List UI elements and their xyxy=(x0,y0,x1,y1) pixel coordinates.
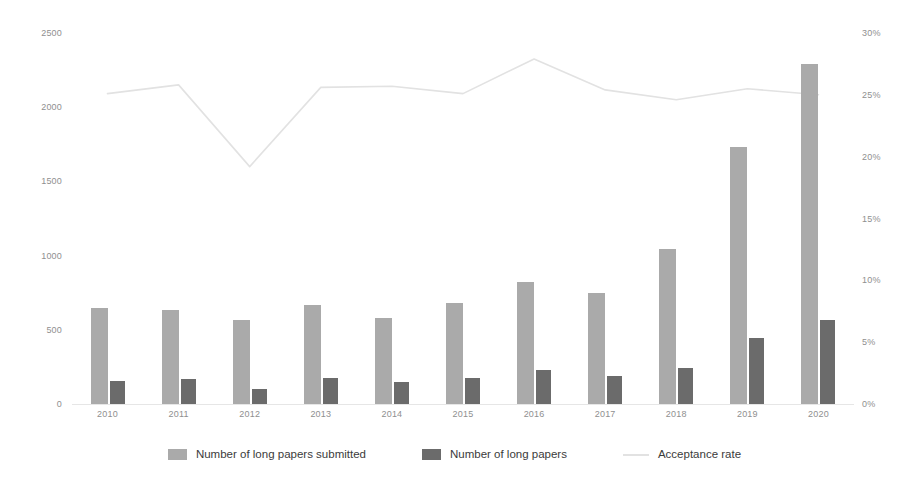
y-axis-left-tick: 1500 xyxy=(41,176,62,186)
x-axis-baseline xyxy=(72,404,854,405)
bar-submitted xyxy=(446,303,463,404)
bar-accepted xyxy=(820,320,835,404)
y-axis-right-tick: 0% xyxy=(862,399,875,409)
x-axis-tick-label: 2019 xyxy=(737,409,758,419)
y-axis-left-tick: 0 xyxy=(57,399,62,409)
legend-label-accepted: Number of long papers xyxy=(450,448,567,460)
x-axis-tick-label: 2016 xyxy=(524,409,545,419)
legend-swatch-submitted-icon xyxy=(168,449,187,460)
y-axis-right-tick: 5% xyxy=(862,337,875,347)
x-axis-tick-label: 2014 xyxy=(381,409,402,419)
x-axis-tick-label: 2015 xyxy=(453,409,474,419)
legend-item-submitted[interactable]: Number of long papers submitted xyxy=(168,448,366,460)
bar-submitted xyxy=(91,308,108,404)
bar-submitted xyxy=(233,320,250,404)
x-axis-tick-label: 2011 xyxy=(169,409,189,419)
legend-item-accepted[interactable]: Number of long papers xyxy=(422,448,567,460)
bar-submitted xyxy=(162,310,179,404)
y-axis-right-tick: 30% xyxy=(862,28,881,38)
bar-accepted xyxy=(749,338,764,404)
chart-legend: Number of long papers submitted Number o… xyxy=(0,440,909,468)
bar-accepted xyxy=(110,381,125,404)
bar-accepted xyxy=(465,378,480,404)
bar-submitted xyxy=(801,64,818,404)
legend-swatch-accepted-icon xyxy=(422,449,441,460)
y-axis-right-tick: 25% xyxy=(862,90,881,100)
acceptance-rate-chart: 05001000150020002500 0%5%10%15%20%25%30%… xyxy=(0,0,909,479)
bar-accepted xyxy=(323,378,338,404)
bar-submitted xyxy=(517,282,534,404)
x-axis-tick-label: 2020 xyxy=(808,409,829,419)
y-axis-left-tick: 2000 xyxy=(41,102,62,112)
x-axis-tick-label: 2010 xyxy=(97,409,118,419)
y-axis-right-tick: 10% xyxy=(862,275,881,285)
y-axis-left-tick: 1000 xyxy=(41,251,62,261)
x-axis-tick-label: 2018 xyxy=(666,409,687,419)
y-axis-right: 0%5%10%15%20%25%30% xyxy=(862,0,908,479)
x-axis-tick-label: 2013 xyxy=(310,409,331,419)
y-axis-right-tick: 15% xyxy=(862,214,881,224)
bar-submitted xyxy=(659,249,676,404)
bar-accepted xyxy=(678,368,693,404)
legend-label-submitted: Number of long papers submitted xyxy=(196,448,366,460)
x-axis-tick-label: 2017 xyxy=(595,409,616,419)
legend-label-rate: Acceptance rate xyxy=(658,448,741,460)
bar-submitted xyxy=(588,293,605,404)
legend-line-rate-icon xyxy=(623,449,649,460)
bar-submitted xyxy=(375,318,392,404)
bar-submitted xyxy=(304,305,321,404)
bar-accepted xyxy=(252,389,267,404)
y-axis-right-tick: 20% xyxy=(862,152,881,162)
bar-accepted xyxy=(607,376,622,404)
x-axis-tick-label: 2012 xyxy=(239,409,260,419)
legend-item-rate[interactable]: Acceptance rate xyxy=(623,448,741,460)
y-axis-left-tick: 500 xyxy=(46,325,62,335)
bar-accepted xyxy=(394,382,409,404)
y-axis-left: 05001000150020002500 xyxy=(0,0,62,479)
bar-submitted xyxy=(730,147,747,404)
plot-area xyxy=(72,33,854,404)
bar-accepted xyxy=(536,370,551,404)
bar-accepted xyxy=(181,379,196,404)
y-axis-left-tick: 2500 xyxy=(41,28,62,38)
